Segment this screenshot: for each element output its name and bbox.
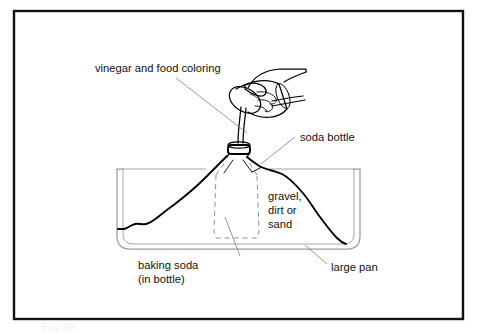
figure-root: Figure bbox=[0, 0, 478, 333]
label-gravel-line-1: gravel, bbox=[268, 190, 302, 202]
label-gravel-line-3: sand bbox=[268, 218, 292, 230]
label-vinegar-and-food-coloring: vinegar and food coloring bbox=[95, 62, 221, 74]
label-gravel-line-2: dirt or bbox=[268, 204, 297, 216]
cutoff-caption-ghost: Figure bbox=[42, 320, 76, 333]
label-soda-bottle: soda bottle bbox=[300, 131, 355, 143]
label-baking-soda-line-2: (in bottle) bbox=[138, 273, 185, 285]
label-baking-soda-line-1: baking soda bbox=[138, 259, 199, 271]
canvas-background bbox=[0, 0, 478, 333]
label-large-pan: large pan bbox=[331, 261, 378, 273]
experiment-diagram: Figure bbox=[0, 0, 478, 333]
